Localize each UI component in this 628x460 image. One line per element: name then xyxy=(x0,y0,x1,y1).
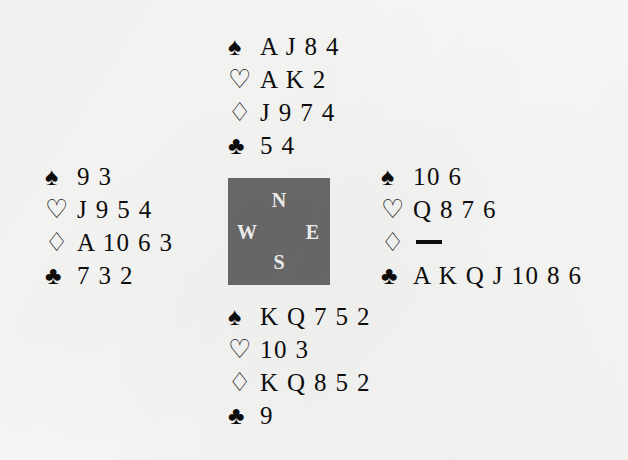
hand-east-hearts-cards: Q 8 7 6 xyxy=(411,197,497,222)
hand-west-hearts-cards: J 9 5 4 xyxy=(75,197,153,222)
hand-north-clubs-cards: 5 4 xyxy=(258,133,295,158)
hand-south-hearts-row: ♡ 10 3 xyxy=(228,337,371,370)
heart-icon: ♡ xyxy=(381,197,411,223)
hand-south-hearts-cards: 10 3 xyxy=(258,337,309,362)
hand-north-hearts-row: ♡ A K 2 xyxy=(228,67,340,100)
heart-icon: ♡ xyxy=(45,197,75,223)
compass-label-west: W xyxy=(237,222,257,242)
hand-south-clubs-row: ♣ 9 xyxy=(228,403,371,436)
hand-west-spades-row: ♠ 9 3 xyxy=(45,164,173,197)
hand-east-clubs-cards: A K Q J 10 8 6 xyxy=(411,263,582,288)
compass-label-east: E xyxy=(306,222,319,242)
hand-east-spades-cards: 10 6 xyxy=(411,164,462,189)
club-icon: ♣ xyxy=(228,403,258,428)
hand-north-spades-cards: A J 8 4 xyxy=(258,34,340,59)
diamond-icon: ♢ xyxy=(228,370,258,396)
spade-icon: ♠ xyxy=(228,34,258,59)
club-icon: ♣ xyxy=(45,263,75,288)
hand-west-diamonds-row: ♢ A 10 6 3 xyxy=(45,230,173,263)
hand-north-diamonds-row: ♢ J 9 7 4 xyxy=(228,100,340,133)
hand-north-spades-row: ♠ A J 8 4 xyxy=(228,34,340,67)
hand-south-clubs-cards: 9 xyxy=(258,403,274,428)
hand-south-spades-row: ♠ K Q 7 5 2 xyxy=(228,304,371,337)
compass-label-south: S xyxy=(228,252,330,272)
spade-icon: ♠ xyxy=(381,164,411,189)
hand-north-diamonds-cards: J 9 7 4 xyxy=(258,100,336,125)
hand-west-spades-cards: 9 3 xyxy=(75,164,112,189)
club-icon: ♣ xyxy=(381,263,411,288)
hand-east-diamonds-row: ♢ xyxy=(381,230,582,263)
diamond-icon: ♢ xyxy=(228,100,258,126)
spade-icon: ♠ xyxy=(45,164,75,189)
hand-north-hearts-cards: A K 2 xyxy=(258,67,327,92)
heart-icon: ♡ xyxy=(228,337,258,363)
hand-east-clubs-row: ♣ A K Q J 10 8 6 xyxy=(381,263,582,296)
diamond-icon: ♢ xyxy=(45,230,75,256)
compass-box: N W E S xyxy=(228,178,330,285)
hand-east-diamonds-cards xyxy=(411,230,442,255)
hand-north: ♠ A J 8 4 ♡ A K 2 ♢ J 9 7 4 ♣ 5 4 xyxy=(228,34,340,166)
hand-south-diamonds-row: ♢ K Q 8 5 2 xyxy=(228,370,371,403)
hand-east-hearts-row: ♡ Q 8 7 6 xyxy=(381,197,582,230)
hand-south: ♠ K Q 7 5 2 ♡ 10 3 ♢ K Q 8 5 2 ♣ 9 xyxy=(228,304,371,436)
hand-north-clubs-row: ♣ 5 4 xyxy=(228,133,340,166)
spade-icon: ♠ xyxy=(228,304,258,329)
club-icon: ♣ xyxy=(228,133,258,158)
hand-west-diamonds-cards: A 10 6 3 xyxy=(75,230,173,255)
void-dash-icon xyxy=(416,240,442,244)
compass-label-north: N xyxy=(228,190,330,210)
hand-west-hearts-row: ♡ J 9 5 4 xyxy=(45,197,173,230)
hand-west: ♠ 9 3 ♡ J 9 5 4 ♢ A 10 6 3 ♣ 7 3 2 xyxy=(45,164,173,296)
hand-south-diamonds-cards: K Q 8 5 2 xyxy=(258,370,371,395)
diamond-icon: ♢ xyxy=(381,230,411,256)
hand-west-clubs-row: ♣ 7 3 2 xyxy=(45,263,173,296)
hand-west-clubs-cards: 7 3 2 xyxy=(75,263,134,288)
hand-east-spades-row: ♠ 10 6 xyxy=(381,164,582,197)
heart-icon: ♡ xyxy=(228,67,258,93)
hand-south-spades-cards: K Q 7 5 2 xyxy=(258,304,371,329)
hand-east: ♠ 10 6 ♡ Q 8 7 6 ♢ ♣ A K Q J 10 8 6 xyxy=(381,164,582,296)
